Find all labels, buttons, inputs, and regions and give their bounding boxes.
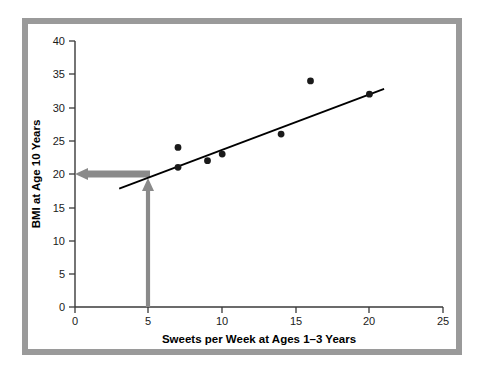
data-point (366, 91, 373, 98)
data-point (307, 78, 314, 85)
x-tick-label-20: 20 (363, 315, 375, 327)
data-point (219, 151, 226, 158)
horizontal-arrowhead-icon (75, 168, 88, 180)
x-tick-label-15: 15 (290, 315, 302, 327)
x-tick-label-5: 5 (145, 315, 151, 327)
y-tick-label-20: 20 (53, 168, 65, 180)
y-tick-label-25: 25 (53, 135, 65, 147)
y-tick-label-40: 40 (53, 35, 65, 47)
data-point (204, 157, 211, 164)
data-point (175, 144, 182, 151)
x-axis-title: Sweets per Week at Ages 1–3 Years (162, 333, 356, 345)
x-axis-tick-labels: 0 5 10 15 20 25 (72, 315, 449, 327)
annotation-arrows (75, 168, 154, 307)
y-tick-label-30: 30 (53, 102, 65, 114)
x-tick-label-25: 25 (437, 315, 449, 327)
y-tick-label-35: 35 (53, 68, 65, 80)
x-tick-label-0: 0 (72, 315, 78, 327)
y-axis-tick-labels: 0 5 10 15 20 25 30 35 40 (53, 35, 65, 313)
x-tick-label-10: 10 (216, 315, 228, 327)
data-point (175, 164, 182, 171)
x-axis-ticks (75, 307, 443, 313)
y-tick-label-10: 10 (53, 235, 65, 247)
scatter-plot: 0 5 10 15 20 25 30 35 40 0 5 10 15 20 25 (0, 0, 485, 375)
trendline (119, 89, 384, 189)
y-tick-label-5: 5 (59, 268, 65, 280)
y-tick-label-15: 15 (53, 202, 65, 214)
figure-root: 0 5 10 15 20 25 30 35 40 0 5 10 15 20 25 (0, 0, 485, 375)
y-axis-ticks (69, 41, 75, 307)
data-point (278, 131, 285, 138)
y-axis-title: BMI at Age 10 Years (30, 120, 42, 229)
y-tick-label-0: 0 (59, 301, 65, 313)
